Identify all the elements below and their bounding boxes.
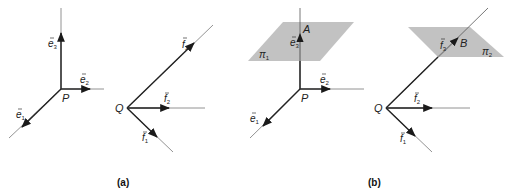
e3-label: e3 <box>48 38 58 50</box>
f1-label: f1 <box>142 132 149 144</box>
caption-b: (b) <box>368 177 381 188</box>
vector-f3-arrow <box>127 43 194 108</box>
f2-label: f2 <box>414 93 421 105</box>
axis-f3-below-plane <box>386 57 438 108</box>
f2-label: f2 <box>164 93 171 105</box>
point-P-label: P <box>301 92 309 104</box>
panel-a: P e3 e2 e1 Q f3 f2 f1 <box>9 8 213 188</box>
frame-P-a: P e3 e2 e1 <box>9 8 104 138</box>
f3-label: f3 <box>182 39 189 51</box>
vector-e1-arrow <box>263 89 300 126</box>
frame-Q-a: Q f3 f2 f1 <box>115 25 213 152</box>
point-P-label: P <box>62 92 70 104</box>
panel-b: π1 P A e3 e2 e1 π2 <box>248 8 504 188</box>
vector-basis-diagram: P e3 e2 e1 Q f3 f2 f1 <box>0 0 509 196</box>
point-A-label: A <box>302 23 310 35</box>
point-Q-label: Q <box>374 102 383 114</box>
caption-a: (a) <box>117 177 129 188</box>
point-Q-label: Q <box>115 102 124 114</box>
e2-label: e2 <box>320 74 330 86</box>
vector-e1-arrow <box>22 89 61 127</box>
vector-f1-arrow <box>386 108 415 136</box>
vector-overbars-Q-a <box>143 38 187 132</box>
e2-label: e2 <box>80 74 90 86</box>
f1-label: f1 <box>400 133 407 145</box>
e1-label: e1 <box>16 109 26 121</box>
point-B-label: B <box>460 37 467 49</box>
e1-label: e1 <box>250 113 260 125</box>
